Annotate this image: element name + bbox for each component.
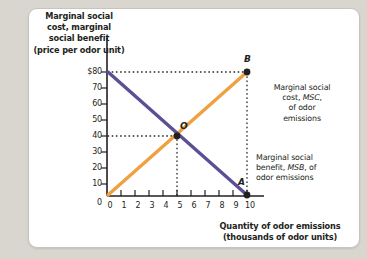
annotation-msb-line-1: Marginal social bbox=[256, 153, 348, 163]
annotation-msc-line-2c: , bbox=[320, 93, 322, 102]
figure-container: Marginal social cost, marginal social be… bbox=[0, 0, 367, 259]
annotation-msc-line-2a: cost, bbox=[282, 93, 303, 102]
x-tick-marks bbox=[121, 190, 247, 196]
point-label-O: O bbox=[180, 121, 188, 131]
y-tick-marks bbox=[101, 72, 107, 184]
point-label-A: A bbox=[238, 177, 245, 187]
data-point-B bbox=[244, 69, 251, 76]
annotation-msc-line-1: Marginal social bbox=[258, 83, 346, 93]
annotation-msb-emphasis: MSB bbox=[287, 163, 304, 172]
annotation-msc: Marginal social cost, MSC, of odor emiss… bbox=[258, 83, 346, 124]
annotation-msc-line-2: cost, MSC, bbox=[258, 93, 346, 103]
annotation-msc-emphasis: MSC bbox=[303, 93, 320, 102]
annotation-msb-line-3: odor emissions bbox=[256, 173, 348, 183]
point-label-B: B bbox=[244, 54, 251, 64]
annotation-msc-line-3: of odor bbox=[258, 103, 346, 113]
annotation-msb-line-2: benefit, MSB, of bbox=[256, 163, 348, 173]
annotation-msb-line-2a: benefit, bbox=[256, 163, 287, 172]
annotation-msb: Marginal social benefit, MSB, of odor em… bbox=[256, 153, 348, 184]
data-point-A bbox=[244, 192, 251, 199]
data-point-O bbox=[174, 133, 181, 140]
annotation-msb-line-2c: , of bbox=[304, 163, 316, 172]
annotation-msc-line-4: emissions bbox=[258, 114, 346, 124]
